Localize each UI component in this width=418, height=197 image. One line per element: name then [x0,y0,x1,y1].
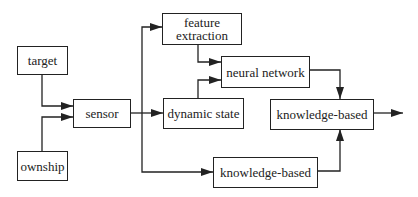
node-neural-network-label: neural network [226,66,304,79]
node-sensor: sensor [73,99,131,128]
edge-kb-lower-kb-main [317,129,340,171]
edge-ownship-sensor [42,117,73,151]
node-knowledge-based-lower-label: knowledge-based [220,166,311,179]
node-dynamic-state: dynamic state [163,98,244,129]
node-sensor-label: sensor [85,107,118,120]
node-dynamic-state-label: dynamic state [168,107,240,120]
node-knowledge-based-main-label: knowledge-based [277,108,368,121]
edge-sensor-feature [142,27,162,113]
edge-feature-neural [198,44,221,62]
node-target: target [17,46,68,75]
edge-target-sensor [42,74,73,106]
node-knowledge-based-main: knowledge-based [270,99,374,130]
node-ownship: ownship [17,151,68,181]
edge-dynamic-neural [198,80,221,98]
diagram-canvas: target ownship sensor feature extraction… [0,0,418,197]
node-knowledge-based-lower: knowledge-based [213,157,318,188]
node-feature-extraction: feature extraction [162,13,242,45]
node-feature-extraction-label-2: extraction [176,29,228,42]
node-ownship-label: ownship [20,160,64,173]
node-neural-network: neural network [221,56,310,88]
edge-neural-kb-main [309,70,340,99]
node-target-label: target [28,54,57,67]
